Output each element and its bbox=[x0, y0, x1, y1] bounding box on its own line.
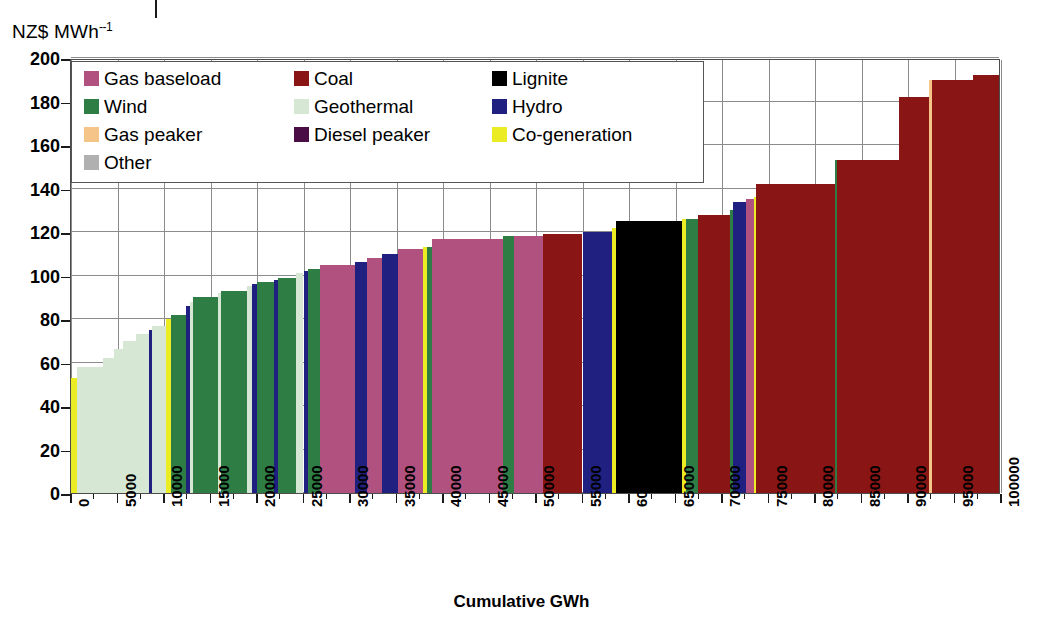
y-axis-tick-mark bbox=[61, 146, 70, 148]
x-axis-tick-label: 25000 bbox=[309, 465, 324, 507]
x-axis-tick-label: 85000 bbox=[867, 465, 882, 507]
legend-swatch-icon bbox=[84, 71, 99, 86]
legend-item: Coal bbox=[294, 65, 353, 92]
y-axis-tick-label: 100 bbox=[10, 268, 60, 286]
legend-swatch-icon bbox=[492, 99, 507, 114]
y-axis-tick-mark bbox=[61, 320, 70, 322]
x-axis-tick-mark bbox=[675, 494, 677, 503]
x-axis-minor-tick bbox=[512, 494, 513, 499]
x-axis-tick-mark bbox=[628, 494, 630, 503]
x-axis-tick-mark bbox=[442, 494, 444, 503]
x-axis-tick-label: 80000 bbox=[820, 465, 835, 507]
legend-item: Wind bbox=[84, 93, 147, 120]
legend-swatch-icon bbox=[84, 127, 99, 142]
x-axis-tick-mark bbox=[349, 494, 351, 503]
x-axis-tick-label: 90000 bbox=[913, 465, 928, 507]
x-axis-tick-mark bbox=[721, 494, 723, 503]
x-axis-tick-label: 100000 bbox=[1006, 457, 1021, 507]
x-axis-tick-mark bbox=[256, 494, 258, 503]
legend-item-label: Wind bbox=[104, 97, 147, 116]
x-axis-minor-tick bbox=[930, 494, 931, 499]
y-axis-tick-mark bbox=[61, 364, 70, 366]
legend-swatch-icon bbox=[294, 71, 309, 86]
legend-item: Other bbox=[84, 149, 152, 176]
legend-swatch-icon bbox=[84, 155, 99, 170]
x-axis-minor-tick bbox=[791, 494, 792, 499]
x-axis-tick-label: 60000 bbox=[634, 465, 649, 507]
x-axis-tick-label: 20000 bbox=[262, 465, 277, 507]
x-axis-tick-label: 95000 bbox=[960, 465, 975, 507]
legend-item-label: Geothermal bbox=[314, 97, 413, 116]
legend-swatch-icon bbox=[294, 99, 309, 114]
x-axis-tick-mark bbox=[861, 494, 863, 503]
legend-swatch-icon bbox=[492, 71, 507, 86]
x-axis-minor-tick bbox=[93, 494, 94, 499]
x-axis-minor-tick bbox=[372, 494, 373, 499]
x-axis-title: Cumulative GWh bbox=[0, 592, 1043, 612]
x-axis-tick-mark bbox=[954, 494, 956, 503]
x-axis-minor-tick bbox=[140, 494, 141, 499]
y-axis-tick-label: 40 bbox=[10, 398, 60, 416]
legend-swatch-icon bbox=[84, 99, 99, 114]
y-axis-tick-label: 120 bbox=[10, 224, 60, 242]
legend-swatch-icon bbox=[294, 127, 309, 142]
x-axis-tick-label: 70000 bbox=[727, 465, 742, 507]
x-axis-minor-tick bbox=[698, 494, 699, 499]
y-axis-tick-label: 160 bbox=[10, 137, 60, 155]
x-axis-tick-label: 5000 bbox=[123, 474, 138, 507]
legend-item-label: Other bbox=[104, 153, 152, 172]
x-axis-tick-label: 75000 bbox=[774, 465, 789, 507]
x-axis-tick-label: 15000 bbox=[216, 465, 231, 507]
y-axis-tick-mark bbox=[61, 103, 70, 105]
legend-item: Gas peaker bbox=[84, 121, 202, 148]
legend-item-label: Coal bbox=[314, 69, 353, 88]
y-axis-tick-mark bbox=[61, 233, 70, 235]
x-axis-minor-tick bbox=[558, 494, 559, 499]
y-axis-tick-label: 80 bbox=[10, 311, 60, 329]
legend-item-label: Co-generation bbox=[512, 125, 632, 144]
x-axis-tick-mark bbox=[210, 494, 212, 503]
x-axis-minor-tick bbox=[279, 494, 280, 499]
x-axis-tick-mark bbox=[535, 494, 537, 503]
x-axis-tick-mark bbox=[117, 494, 119, 503]
y-axis-tick-label: 60 bbox=[10, 355, 60, 373]
y-axis-tick-mark bbox=[61, 59, 70, 61]
x-axis-minor-tick bbox=[465, 494, 466, 499]
x-axis-tick-label: 65000 bbox=[681, 465, 696, 507]
x-axis-tick-mark bbox=[396, 494, 398, 503]
x-axis-minor-tick bbox=[837, 494, 838, 499]
x-axis-minor-tick bbox=[233, 494, 234, 499]
legend-item-label: Hydro bbox=[512, 97, 563, 116]
y-axis-tick-mark bbox=[61, 277, 70, 279]
x-axis-tick-mark bbox=[163, 494, 165, 503]
x-axis-tick-label: 35000 bbox=[402, 465, 417, 507]
x-axis-tick-mark bbox=[1000, 494, 1002, 503]
x-axis-tick-label: 45000 bbox=[495, 465, 510, 507]
x-axis-minor-tick bbox=[884, 494, 885, 499]
x-axis-minor-tick bbox=[186, 494, 187, 499]
x-axis-tick-mark bbox=[582, 494, 584, 503]
x-axis-minor-tick bbox=[605, 494, 606, 499]
x-axis-tick-mark bbox=[768, 494, 770, 503]
x-axis-tick-mark bbox=[303, 494, 305, 503]
y-axis-tick-label: 140 bbox=[10, 181, 60, 199]
x-axis-tick-label: 40000 bbox=[448, 465, 463, 507]
legend-item: Co-generation bbox=[492, 121, 632, 148]
legend-item-label: Lignite bbox=[512, 69, 568, 88]
y-axis-tick-mark bbox=[61, 494, 70, 496]
x-axis-tick-mark bbox=[907, 494, 909, 503]
legend-item: Geothermal bbox=[294, 93, 413, 120]
legend-item: Lignite bbox=[492, 65, 568, 92]
x-axis-minor-tick bbox=[419, 494, 420, 499]
y-axis-tick-label: 200 bbox=[10, 50, 60, 68]
y-axis-tick-label: 0 bbox=[10, 485, 60, 503]
legend-item-label: Diesel peaker bbox=[314, 125, 430, 144]
legend-item-label: Gas peaker bbox=[104, 125, 202, 144]
x-axis-tick-label: 55000 bbox=[588, 465, 603, 507]
y-axis-tick-mark bbox=[61, 407, 70, 409]
legend-item: Gas baseload bbox=[84, 65, 221, 92]
x-axis-tick-mark bbox=[70, 494, 72, 503]
y-axis-tick-label: 20 bbox=[10, 442, 60, 460]
x-axis-tick-label: 50000 bbox=[541, 465, 556, 507]
y-axis-tick-mark bbox=[61, 190, 70, 192]
